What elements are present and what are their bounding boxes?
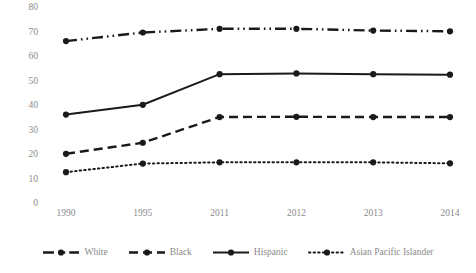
legend-swatch-icon: [128, 247, 166, 258]
data-point: [447, 72, 453, 78]
y-axis-tick-label: 10: [29, 175, 39, 185]
series-asian-pacific-islander: [63, 159, 453, 175]
legend-item-black[interactable]: Black: [128, 247, 192, 258]
legend-label: Hispanic: [254, 247, 288, 258]
data-point: [447, 160, 453, 166]
data-point: [217, 26, 223, 32]
series-black: [63, 114, 453, 157]
line-chart: 01020304050607080 1990199520112012201320…: [0, 0, 476, 273]
data-point: [217, 114, 223, 120]
series-lines-svg: [48, 8, 460, 204]
data-point: [447, 114, 453, 120]
y-axis-tick-label: 50: [29, 77, 39, 87]
plot-area: [48, 8, 460, 204]
data-point: [370, 114, 376, 120]
x-axis-tick-label: 2014: [441, 209, 460, 219]
y-axis-tick-label: 80: [29, 3, 39, 13]
series-line: [66, 162, 450, 172]
data-point: [140, 29, 146, 35]
x-axis-tick-label: 2013: [364, 209, 383, 219]
legend-label: Asian Pacific Islander: [350, 247, 434, 258]
y-axis-tick-label: 0: [33, 199, 38, 209]
y-axis-tick-label: 30: [29, 126, 39, 136]
data-point: [63, 151, 69, 157]
x-axis-tick-labels: 199019952011201220132014: [48, 209, 460, 225]
y-axis-tick-label: 60: [29, 52, 39, 62]
y-axis-tick-label: 40: [29, 101, 39, 111]
data-point: [293, 26, 299, 32]
data-point: [63, 38, 69, 44]
data-point: [217, 159, 223, 165]
data-point: [140, 140, 146, 146]
data-point: [370, 71, 376, 77]
legend-swatch-icon: [212, 247, 250, 258]
legend-item-hispanic[interactable]: Hispanic: [212, 247, 288, 258]
y-axis-tick-labels: 01020304050607080: [0, 0, 46, 212]
x-axis-tick-label: 2011: [210, 209, 229, 219]
legend-label: White: [84, 247, 107, 258]
series-line: [66, 117, 450, 154]
y-axis-tick-label: 20: [29, 150, 39, 160]
series-line: [66, 29, 450, 41]
x-axis-tick-label: 1995: [133, 209, 152, 219]
legend-label: Black: [170, 247, 192, 258]
series-hispanic: [63, 70, 453, 117]
data-point: [140, 102, 146, 108]
legend-swatch-icon: [42, 247, 80, 258]
data-point: [293, 70, 299, 76]
series-line: [66, 73, 450, 114]
data-point: [293, 159, 299, 165]
data-point: [140, 160, 146, 166]
series-white: [63, 26, 453, 44]
data-point: [447, 28, 453, 34]
data-point: [370, 159, 376, 165]
y-axis-tick-label: 70: [29, 28, 39, 38]
data-point: [63, 169, 69, 175]
legend-item-white[interactable]: White: [42, 247, 107, 258]
x-axis-tick-label: 1990: [57, 209, 76, 219]
data-point: [63, 111, 69, 117]
x-axis-tick-label: 2012: [287, 209, 306, 219]
data-point: [217, 71, 223, 77]
data-point: [293, 114, 299, 120]
data-point: [370, 27, 376, 33]
legend-swatch-icon: [308, 247, 346, 258]
chart-legend: WhiteBlackHispanicAsian Pacific Islander: [0, 241, 476, 263]
legend-item-asian-pacific-islander[interactable]: Asian Pacific Islander: [308, 247, 434, 258]
